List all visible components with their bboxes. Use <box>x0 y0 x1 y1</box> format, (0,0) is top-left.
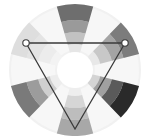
spoke-band <box>57 4 93 22</box>
wheel-center <box>57 52 93 88</box>
color-wheel-diagram <box>0 0 150 136</box>
spoke-band <box>61 20 89 33</box>
vertex-marker-icon <box>122 40 128 46</box>
spoke-band <box>65 95 86 108</box>
spoke-band <box>57 118 93 136</box>
color-wheel-svg <box>0 0 150 136</box>
vertex-marker-icon <box>23 40 29 46</box>
